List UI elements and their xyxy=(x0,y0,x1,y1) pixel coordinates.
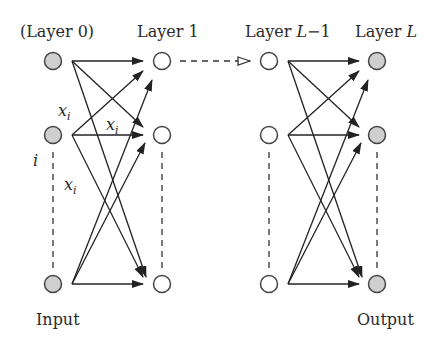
edge-arrow xyxy=(288,61,362,277)
xi-label-lower: xi xyxy=(64,175,77,197)
output-label: Output xyxy=(357,310,414,329)
xi-label-top: xi xyxy=(58,101,71,123)
hidden-node xyxy=(261,53,278,70)
hidden-node xyxy=(154,53,171,70)
index-i-label: i xyxy=(33,151,38,170)
input-node xyxy=(45,127,62,144)
layer-l-label: Layer L xyxy=(355,22,417,41)
hidden-node xyxy=(154,276,171,293)
edges-layer0-to-layer1 xyxy=(72,61,152,284)
output-node xyxy=(369,276,386,293)
edge-arrow xyxy=(288,80,368,284)
output-node xyxy=(369,127,386,144)
neural-network-diagram: (Layer 0) Layer 1 Layer L−1 Layer L xyxy=(0,0,448,343)
input-label: Input xyxy=(36,310,80,329)
edge-arrow xyxy=(288,143,361,284)
xi-label-middle: xi xyxy=(106,115,119,137)
hidden-node xyxy=(261,127,278,144)
output-node xyxy=(369,53,386,70)
layer-1-label: Layer 1 xyxy=(137,22,199,41)
hidden-node xyxy=(154,127,171,144)
hidden-node xyxy=(261,276,278,293)
edge-arrow xyxy=(72,61,146,277)
input-node xyxy=(45,276,62,293)
layer-l-minus-1-label: Layer L−1 xyxy=(245,22,331,41)
edge-arrow xyxy=(72,80,152,284)
layer-0-label: (Layer 0) xyxy=(20,22,94,41)
edges-layerLm1-to-layerL xyxy=(288,61,368,284)
input-node xyxy=(45,53,62,70)
edge-arrow xyxy=(72,143,145,284)
edge-arrow xyxy=(288,71,359,135)
